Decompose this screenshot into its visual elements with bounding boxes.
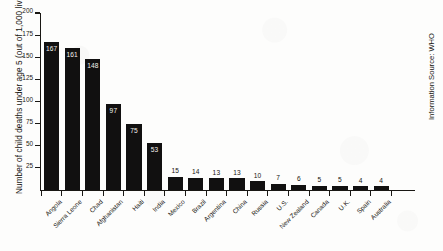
y-axis-tick: 200 bbox=[35, 12, 40, 13]
y-axis-tick: 100 bbox=[35, 101, 40, 102]
y-axis-title-label: Number of child deaths under age 5 (out … bbox=[13, 14, 26, 194]
bar bbox=[188, 178, 203, 190]
bar-value-label: 53 bbox=[147, 146, 162, 153]
y-axis-tick-mark bbox=[35, 79, 40, 80]
x-axis-line bbox=[40, 190, 415, 191]
y-axis-tick-mark bbox=[35, 12, 40, 13]
y-axis-tick-mark bbox=[35, 35, 40, 36]
x-axis-tick-mark bbox=[164, 191, 165, 196]
bar: 97 bbox=[106, 104, 121, 190]
x-axis-tick-mark bbox=[391, 191, 392, 196]
x-axis-tick-mark bbox=[185, 191, 186, 196]
y-axis-tick-label: 150 bbox=[22, 52, 33, 59]
y-axis-tick: 50 bbox=[35, 145, 40, 146]
y-axis-tick-label: 75 bbox=[26, 118, 33, 125]
child-mortality-bar-chart: Number of child deaths under age 5 (out … bbox=[0, 0, 443, 251]
x-axis-tick-mark bbox=[82, 191, 83, 196]
x-axis-tick-mark bbox=[61, 191, 62, 196]
bar bbox=[332, 186, 347, 190]
x-axis-tick-mark bbox=[123, 191, 124, 196]
bar bbox=[374, 186, 389, 190]
y-axis-title: Number of child deaths under age 5 (out … bbox=[13, 14, 26, 194]
x-axis-tick-mark bbox=[41, 191, 42, 196]
bar: 75 bbox=[126, 124, 141, 190]
bar-value-label: 4 bbox=[366, 177, 396, 184]
bar bbox=[353, 186, 368, 190]
y-axis-tick-mark bbox=[35, 101, 40, 102]
bar bbox=[250, 181, 265, 190]
bar-value-label: 148 bbox=[85, 62, 100, 69]
x-axis-tick-mark bbox=[226, 191, 227, 196]
y-axis-tick-mark bbox=[35, 167, 40, 168]
bar bbox=[168, 177, 183, 190]
y-axis-tick: 25 bbox=[35, 167, 40, 168]
y-axis-tick-label: 175 bbox=[22, 30, 33, 37]
bar: 161 bbox=[65, 48, 80, 190]
x-axis-tick-mark bbox=[206, 191, 207, 196]
y-axis-tick-label: 125 bbox=[22, 74, 33, 81]
bar: 167 bbox=[44, 42, 59, 190]
y-axis-line bbox=[40, 13, 41, 191]
y-axis-tick-label: 50 bbox=[26, 140, 33, 147]
bar bbox=[312, 186, 327, 190]
x-axis-tick-mark bbox=[247, 191, 248, 196]
y-axis-tick: 150 bbox=[35, 57, 40, 58]
x-axis-tick-mark bbox=[309, 191, 310, 196]
x-axis-tick-mark bbox=[350, 191, 351, 196]
bar bbox=[271, 184, 286, 190]
bar bbox=[229, 178, 244, 190]
source-note: Information Source: WHO bbox=[427, 0, 439, 120]
x-axis-tick-mark bbox=[288, 191, 289, 196]
y-axis-tick-mark bbox=[35, 123, 40, 124]
bar-value-label: 75 bbox=[126, 127, 141, 134]
bar-value-label: 167 bbox=[44, 45, 59, 52]
bar bbox=[291, 185, 306, 190]
bar: 148 bbox=[85, 59, 100, 190]
y-axis-tick-label: 200 bbox=[22, 7, 33, 14]
bar-value-label: 97 bbox=[106, 107, 121, 114]
y-axis-tick-mark bbox=[35, 145, 40, 146]
x-axis-tick-mark bbox=[144, 191, 145, 196]
y-axis-tick-label: 25 bbox=[26, 162, 33, 169]
y-axis-tick-label: 100 bbox=[22, 96, 33, 103]
x-axis-tick-mark bbox=[103, 191, 104, 196]
bar-value-label: 161 bbox=[65, 51, 80, 58]
y-axis-tick: 175 bbox=[35, 35, 40, 36]
y-axis-tick-mark bbox=[35, 57, 40, 58]
y-axis-tick: 75 bbox=[35, 123, 40, 124]
x-axis-tick-mark bbox=[267, 191, 268, 196]
x-axis-tick-mark bbox=[329, 191, 330, 196]
y-axis-tick: 125 bbox=[35, 79, 40, 80]
x-axis-tick-mark bbox=[370, 191, 371, 196]
bar bbox=[209, 178, 224, 190]
